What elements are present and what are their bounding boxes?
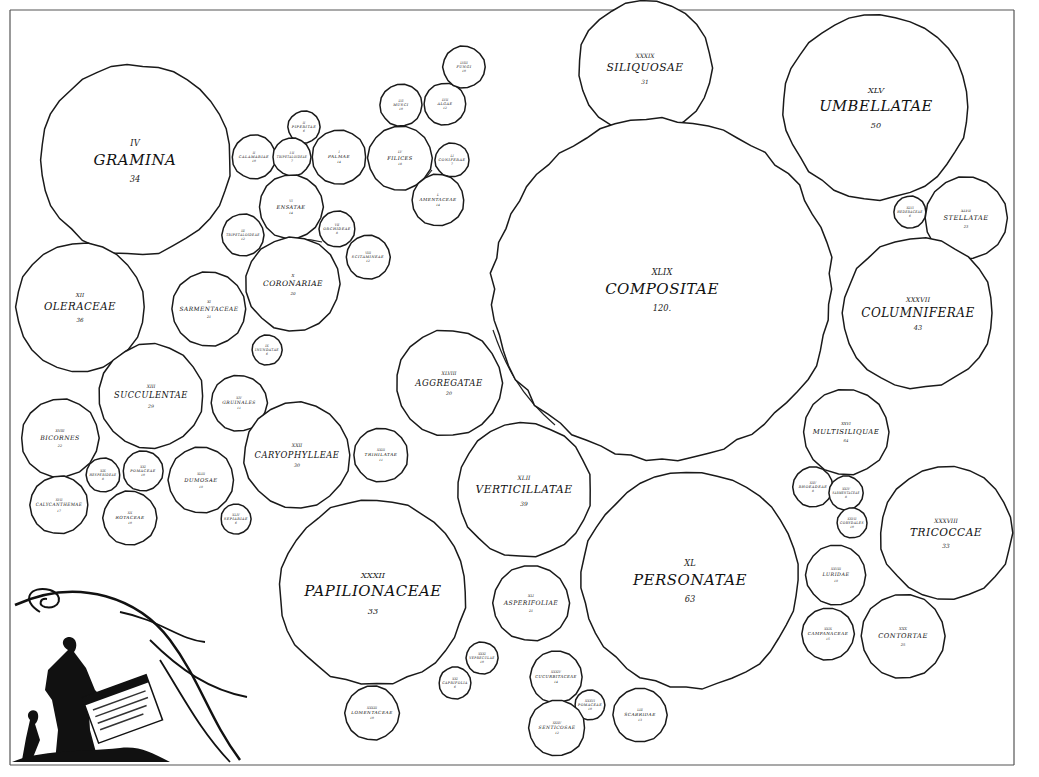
- order-count: 8: [845, 495, 847, 499]
- order-name: CAMPANACEAE: [808, 631, 849, 636]
- order-count: 6: [303, 129, 305, 133]
- order-numeral: XL: [683, 558, 696, 568]
- order-count: 6: [909, 214, 911, 218]
- order-name: SILIQUOSAE: [606, 61, 683, 74]
- order-trihilatae-lobbe: I IITRIPETALOIDEAE7: [273, 138, 311, 176]
- order-count: 22: [57, 444, 62, 448]
- order-numeral: XXX: [898, 627, 907, 631]
- order-name: STELLATAE: [944, 214, 989, 222]
- cherub-icon: [22, 710, 40, 760]
- order-name: PAPILIONACEAE: [303, 582, 441, 600]
- order-numeral: XVIII: [55, 429, 66, 433]
- order-compositae: XLIXCOMPOSITAE120.: [490, 118, 832, 461]
- order-name: CALYCANTHEMAE: [36, 502, 83, 507]
- order-count: 15: [826, 637, 830, 641]
- order-numeral: XIII: [146, 384, 156, 389]
- order-columniferae: XXXVIICOLUMNIFERAE43: [842, 238, 992, 389]
- order-numeral: XXXIX: [634, 53, 655, 59]
- order-luridae: XXVIIILURIDAE19: [806, 545, 866, 604]
- order-vepreculae: XXXIVEPRECULAE10: [466, 642, 498, 674]
- order-contortae: XXXCONTORTAE25: [861, 595, 945, 678]
- order-count: 8: [336, 231, 338, 235]
- order-fungi: LVIIIFUNGI10: [443, 46, 486, 88]
- order-name: VERTICILLATAE: [475, 483, 572, 496]
- order-numeral: XXVIII: [830, 567, 842, 571]
- flourish-curve-4: [160, 660, 230, 762]
- order-name: SUCCULENTAE: [114, 390, 188, 400]
- affinity-map: IVGRAMINA34IICALAMARIAE10IIPIPERITAE6I I…: [0, 0, 1039, 777]
- order-count: 6: [454, 685, 456, 689]
- order-name: AGGREGATAE: [414, 378, 483, 388]
- order-count: 120.: [653, 303, 671, 313]
- order-count: 14: [554, 680, 558, 684]
- order-coniferae: LICONIFERAE7: [435, 143, 469, 177]
- order-coronariae: XCORONARIAE20: [246, 237, 340, 331]
- order-name: SARMENTACEAE: [179, 306, 238, 312]
- order-count: 10: [588, 707, 592, 711]
- order-name: PERSONATAE: [632, 571, 747, 589]
- order-count: 21: [206, 315, 211, 319]
- order-count: 6: [266, 352, 268, 356]
- order-count: 14: [436, 203, 440, 207]
- order-count: 12: [366, 259, 370, 263]
- order-circles: IVGRAMINA34IICALAMARIAE10IIPIPERITAE6I I…: [16, 1, 1013, 756]
- order-numeral: LIII: [636, 708, 643, 712]
- order-name: COLUMNIFERAE: [861, 306, 975, 320]
- order-name: COMPOSITAE: [605, 280, 719, 298]
- order-count: 50: [871, 120, 881, 130]
- order-name: BICORNES: [39, 434, 80, 441]
- order-name: FILICES: [386, 155, 413, 161]
- order-musci: LVIMUSCI10: [380, 84, 422, 126]
- order-sepiariae: XLIVSEPIARIAE6: [221, 504, 251, 534]
- order-numeral: LV: [397, 150, 403, 154]
- order-count: 10: [252, 159, 256, 163]
- order-numeral: XII: [75, 292, 85, 298]
- order-name: DUMOSAE: [183, 477, 217, 483]
- order-count: 21: [528, 609, 533, 613]
- order-count: 29: [147, 404, 154, 409]
- order-count: 8: [812, 489, 814, 493]
- order-name: UMBELLATAE: [819, 97, 933, 114]
- order-papilionaceae: XXXIIPAPILIONACEAE33: [280, 500, 466, 684]
- order-numeral: XXXIII: [366, 706, 378, 710]
- flourish-curve-2: [120, 612, 205, 642]
- flora-ornament: [12, 589, 247, 762]
- order-count: 19: [834, 579, 838, 583]
- order-count: 11: [237, 406, 241, 410]
- order-inundatae: IXINUNDATAE6: [252, 335, 282, 365]
- order-siliquosae: XXXIXSILIQUOSAE31: [579, 1, 713, 136]
- order-count: 17: [57, 509, 61, 513]
- order-count: 23: [963, 225, 969, 229]
- order-count: 10: [399, 107, 403, 111]
- order-amentaceae: LAMENTACEAE14: [412, 174, 464, 225]
- order-count: 31: [641, 79, 649, 85]
- order-sarmentaceae: XISARMENTACEAE21: [172, 272, 246, 346]
- order-succulentae: XIIISUCCULENTAE29: [99, 343, 202, 448]
- order-count: 39: [520, 501, 528, 507]
- order-campanaceae: XXIXCAMPANACEAE15: [802, 608, 855, 660]
- order-caprifolia: XXICAPRIFOLIA6: [439, 667, 471, 699]
- order-count: 12: [241, 237, 245, 241]
- order-numeral: XLI: [527, 594, 535, 598]
- order-count: 12: [443, 106, 447, 110]
- order-numeral: XVII: [55, 498, 63, 502]
- order-aggregatae: XLVIIIAGGREGATAE20: [397, 330, 503, 435]
- order-name: TRIHILATAE: [365, 452, 398, 457]
- order-count: 7: [451, 162, 453, 166]
- order-count: 64: [844, 438, 849, 443]
- order-numeral: XLVII: [960, 209, 972, 213]
- order-algae: LVIIALGAE12: [424, 83, 466, 125]
- order-numeral: VIII: [365, 251, 372, 255]
- order-name: GRAMINA: [94, 151, 177, 169]
- order-numeral: XXVI: [840, 421, 851, 426]
- order-name: OLERACEAE: [44, 301, 116, 312]
- order-caryophylleae: XXIICARYOPHYLLEAE30: [244, 402, 350, 508]
- order-name: MULTISILIQUAE: [812, 428, 880, 436]
- order-count: 8: [102, 477, 104, 481]
- order-name: CONTORTAE: [878, 632, 928, 640]
- order-numeral: XXXVIII: [933, 518, 958, 524]
- order-count: 36: [76, 317, 84, 323]
- order-numeral: XLII: [517, 475, 531, 481]
- order-count: 34: [130, 174, 141, 184]
- order-trihilatae: XXIIITRIHILATAE11: [354, 429, 408, 482]
